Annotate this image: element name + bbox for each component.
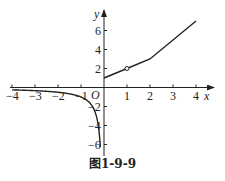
- svg-text:−6: −6: [88, 138, 101, 152]
- x-axis-label: x: [203, 89, 210, 103]
- origin-label: O: [91, 88, 100, 102]
- svg-text:2: 2: [147, 89, 153, 103]
- svg-text:2: 2: [95, 62, 101, 76]
- y-axis-label: y: [93, 7, 100, 21]
- svg-text:−2: −2: [52, 89, 65, 103]
- figure-caption: 图1-9-9: [0, 154, 225, 171]
- svg-text:1: 1: [124, 89, 130, 103]
- svg-text:4: 4: [95, 43, 101, 57]
- open-circle-point: [125, 67, 129, 71]
- svg-text:3: 3: [170, 89, 176, 103]
- right-branch-line: [104, 21, 196, 78]
- svg-text:6: 6: [95, 24, 101, 38]
- svg-text:4: 4: [193, 89, 199, 103]
